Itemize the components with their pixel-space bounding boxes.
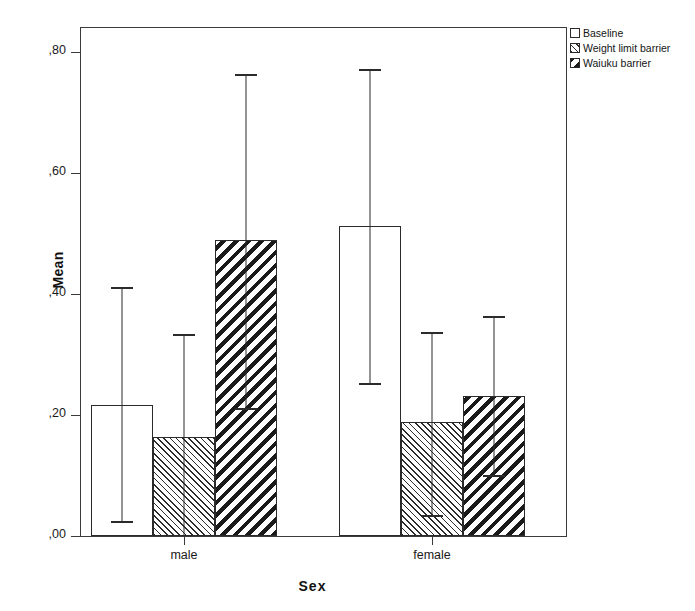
error-bar-stem [494, 317, 495, 477]
x-tick-label: female [413, 548, 451, 562]
error-bar-cap-lower [421, 515, 443, 517]
x-tick-mark [432, 537, 433, 545]
y-tick-label: ,40 [49, 285, 66, 299]
bars-layer [81, 28, 566, 536]
legend-item-label: Baseline [583, 28, 623, 39]
series-container [81, 28, 566, 536]
error-bar-cap-lower [483, 475, 505, 477]
legend-item: Baseline [570, 26, 695, 40]
error-bar-stem [432, 333, 433, 516]
error-bar-cap-upper [111, 287, 133, 289]
y-tick-label: ,60 [49, 164, 66, 178]
error-bar-stem [122, 288, 123, 523]
error-bar-cap-upper [421, 332, 443, 334]
y-axis-title: Mean [50, 210, 66, 330]
legend: BaselineWeight limit barrierWaiuku barri… [570, 26, 695, 71]
error-bar-stem [184, 335, 185, 536]
y-tick-mark [71, 52, 80, 53]
y-tick-mark [71, 173, 80, 174]
error-bar [401, 28, 463, 536]
error-bar-cap-lower [359, 383, 381, 385]
x-axis-title: Sex [0, 578, 695, 594]
x-tick-label: male [170, 548, 197, 562]
legend-item-label: Waiuku barrier [583, 58, 651, 69]
y-tick: ,60 [0, 173, 80, 174]
y-tick-mark [71, 294, 80, 295]
y-tick: ,20 [0, 415, 80, 416]
y-tick-mark [71, 415, 80, 416]
y-tick-label: ,00 [49, 527, 66, 541]
error-bar [91, 28, 153, 536]
legend-swatch-icon [570, 28, 580, 38]
y-tick: ,40 [0, 294, 80, 295]
x-axis-title-text: Sex [299, 578, 327, 594]
error-bar-cap-lower [111, 521, 133, 523]
error-bar-cap-upper [235, 74, 257, 76]
error-bar-stem [246, 75, 247, 410]
y-tick-label: ,20 [49, 406, 66, 420]
error-bar-cap-upper [483, 316, 505, 318]
x-tick-mark [184, 537, 185, 545]
error-bar-stem [370, 70, 371, 385]
y-tick-label: ,80 [49, 43, 66, 57]
y-tick: ,00 [0, 536, 80, 537]
y-tick-mark [71, 536, 80, 537]
error-bar-cap-upper [359, 69, 381, 71]
error-bar-cap-lower [235, 408, 257, 410]
y-tick: ,80 [0, 52, 80, 53]
error-bar [153, 28, 215, 536]
legend-item-label: Weight limit barrier [583, 43, 670, 54]
legend-swatch-icon [570, 43, 580, 53]
legend-swatch-icon [570, 58, 580, 68]
error-bar-cap-upper [173, 334, 195, 336]
error-bar [215, 28, 277, 536]
chart-canvas: Mean ,00,20,40,60,80 malefemale Sex Base… [0, 0, 695, 611]
error-bar [339, 28, 401, 536]
legend-item: Weight limit barrier [570, 41, 695, 55]
error-bar [463, 28, 525, 536]
legend-item: Waiuku barrier [570, 56, 695, 70]
